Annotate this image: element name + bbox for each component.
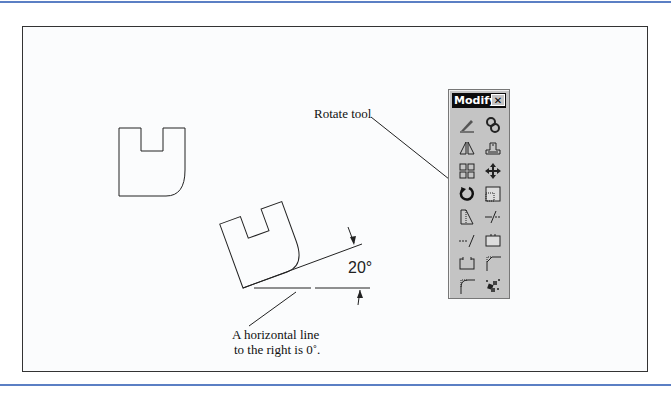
rotate-button[interactable] (455, 182, 479, 205)
array-icon (458, 162, 476, 180)
move-icon (484, 162, 502, 180)
cad-drawing (0, 0, 671, 394)
break-icon (484, 231, 502, 249)
offset-button[interactable] (481, 136, 505, 159)
rotate-tool-leader (371, 117, 454, 183)
move-button[interactable] (481, 159, 505, 182)
break-button[interactable] (481, 228, 505, 251)
erase-button[interactable] (455, 113, 479, 136)
rotate-tool-callout: Rotate tool (314, 106, 371, 122)
chamfer-icon (484, 254, 502, 272)
close-icon[interactable]: ✕ (491, 94, 505, 106)
horizontal-line-callout-1: A horizontal line (232, 327, 319, 343)
chamfer-box-icon (458, 254, 476, 272)
copy-button[interactable] (481, 113, 505, 136)
toolbar-tools (455, 113, 505, 297)
scale-icon (484, 185, 502, 203)
fillet-icon (458, 277, 476, 295)
rotated-part-shape (220, 202, 305, 288)
explode-button[interactable] (481, 274, 505, 297)
chamfer-button[interactable] (481, 251, 505, 274)
scale-button[interactable] (481, 182, 505, 205)
erase-icon (458, 116, 476, 134)
trim-button[interactable] (481, 205, 505, 228)
original-part-shape (119, 128, 185, 196)
rotate-icon (458, 185, 476, 203)
fillet-button[interactable] (455, 274, 479, 297)
offset-icon (484, 139, 502, 157)
extend-icon (458, 231, 476, 249)
explode-icon (484, 277, 502, 295)
modify-toolbar: Modify ✕ (448, 89, 510, 299)
array-button[interactable] (455, 159, 479, 182)
copy-icon (484, 116, 502, 134)
horizontal-line-callout-2: to the right is 0˚. (234, 342, 320, 358)
toolbar-title-bar[interactable]: Modify ✕ (452, 93, 506, 108)
stretch-button[interactable] (455, 205, 479, 228)
arrowhead-top-icon (350, 236, 356, 245)
mirror-button[interactable] (455, 136, 479, 159)
horizontal-line-leader (249, 292, 296, 326)
arrowhead-bottom-icon (357, 290, 363, 298)
rotated-baseline (243, 244, 362, 288)
toolbar-title: Modify (454, 94, 496, 107)
mirror-icon (458, 139, 476, 157)
stretch-icon (458, 208, 476, 226)
angle-label: 20° (348, 259, 372, 277)
trim-icon (484, 208, 502, 226)
chamfer-box-button[interactable] (455, 251, 479, 274)
extend-button[interactable] (455, 228, 479, 251)
